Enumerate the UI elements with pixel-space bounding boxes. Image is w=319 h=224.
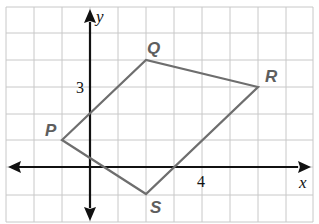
x-axis xyxy=(8,161,311,173)
quadrilateral-pqrs xyxy=(62,60,258,194)
x-tick-label: 4 xyxy=(197,173,205,190)
vertex-label-q: Q xyxy=(147,39,160,58)
y-axis xyxy=(84,9,96,221)
vertex-label-r: R xyxy=(265,67,278,86)
y-axis-up-arrow-icon xyxy=(84,9,96,23)
vertex-label-s: S xyxy=(150,198,162,217)
y-axis-down-arrow-icon xyxy=(84,207,96,221)
y-tick-label: 3 xyxy=(76,79,84,96)
vertex-label-p: P xyxy=(45,121,57,140)
coordinate-plane: y x 3 4 P Q R S xyxy=(0,0,319,224)
x-axis-label: x xyxy=(298,173,307,192)
y-axis-label: y xyxy=(94,7,104,26)
